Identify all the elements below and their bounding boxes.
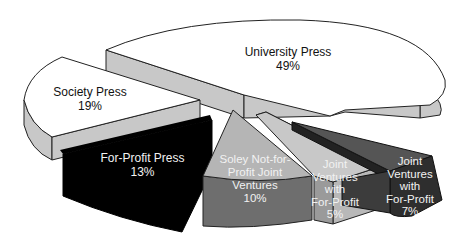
label-for-profit-press: For-Profit Press 13%	[90, 151, 195, 179]
label-jv5-line1: Joint	[305, 158, 365, 171]
label-jv7-line2: Ventures	[378, 168, 442, 181]
label-jv7-pct: 7%	[378, 205, 442, 218]
label-for-profit-press-pct: 13%	[90, 165, 195, 179]
label-jv5-line3: with	[305, 183, 365, 196]
label-soley-pct: 10%	[205, 192, 305, 205]
label-university-press-pct: 49%	[228, 59, 348, 73]
label-jv7-line3: with	[378, 180, 442, 193]
label-jv5-line4: For-Profit	[305, 196, 365, 209]
label-society-press: Society Press 19%	[35, 85, 145, 113]
label-university-press: University Press 49%	[228, 45, 348, 73]
label-jv5-pct: 5%	[305, 208, 365, 221]
label-soley-line2: Profit Joint	[205, 166, 305, 179]
label-for-profit-press-name: For-Profit Press	[90, 151, 195, 165]
label-jv5-line2: Ventures	[305, 171, 365, 184]
label-soley-not-for-profit-jv: Soley Not-for- Profit Joint Ventures 10%	[205, 153, 305, 205]
label-joint-ventures-5pct: Joint Ventures with For-Profit 5%	[305, 158, 365, 221]
label-jv7-line4: For-Profit	[378, 193, 442, 206]
label-jv7-line1: Joint	[378, 155, 442, 168]
label-soley-line3: Ventures	[205, 179, 305, 192]
label-society-press-name: Society Press	[35, 85, 145, 99]
label-joint-ventures-7pct: Joint Ventures with For-Profit 7%	[378, 155, 442, 218]
label-university-press-name: University Press	[228, 45, 348, 59]
label-soley-line1: Soley Not-for-	[205, 153, 305, 166]
label-society-press-pct: 19%	[35, 99, 145, 113]
